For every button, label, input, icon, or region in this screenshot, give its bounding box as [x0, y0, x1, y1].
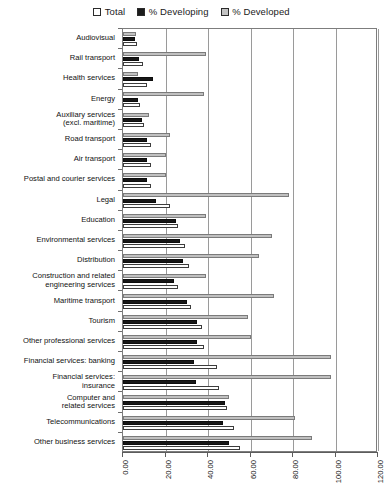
legend-label-developed: % Developed — [232, 6, 290, 17]
bar-developing — [123, 320, 197, 324]
x-axis-label: 60.00 — [248, 460, 257, 479]
y-axis-label: Postal and courier services — [24, 175, 115, 183]
x-axis-label: 80.00 — [291, 460, 300, 479]
y-axis-label: Financial services: banking — [24, 357, 115, 365]
bar-group — [123, 150, 376, 170]
bar-developed — [123, 32, 136, 36]
bar-group — [123, 433, 376, 453]
bar-developed — [123, 214, 206, 218]
bar-total — [123, 103, 140, 107]
legend-item-total: Total — [93, 6, 125, 17]
y-axis-tick — [118, 230, 122, 231]
bar-total — [123, 83, 147, 87]
chart-legend: Total % Developing % Developed — [0, 6, 383, 17]
bar-developing — [123, 380, 196, 384]
y-axis-tick — [118, 169, 122, 170]
y-axis-label: Construction and related engineering ser… — [32, 272, 115, 289]
y-axis-label: Education — [81, 216, 115, 224]
bar-developed — [123, 234, 272, 238]
bar-developed — [123, 436, 312, 440]
bar-total — [123, 123, 144, 127]
bar-developing — [123, 360, 194, 364]
bar-developed — [123, 335, 251, 339]
bar-developing — [123, 401, 225, 405]
y-axis-label: Air transport — [74, 155, 115, 163]
y-axis-label: Road transport — [65, 135, 115, 143]
y-axis-label: Audiovisual — [76, 34, 115, 42]
bar-group — [123, 372, 376, 392]
y-axis-label: Computer and related services — [62, 393, 115, 410]
bar-group — [123, 413, 376, 433]
y-axis-tick — [118, 149, 122, 150]
x-axis-tick-120 — [377, 452, 378, 457]
y-axis-tick — [118, 129, 122, 130]
bar-group — [123, 291, 376, 311]
bar-rows — [123, 29, 376, 451]
y-axis-tick — [118, 351, 122, 352]
bar-total — [123, 204, 170, 208]
bar-group — [123, 332, 376, 352]
y-axis-label: Financial services: insurance — [53, 373, 115, 390]
y-axis-tick — [118, 412, 122, 413]
bar-developed — [123, 375, 331, 379]
bar-group — [123, 271, 376, 291]
bar-developed — [123, 113, 149, 117]
y-axis-tick — [118, 331, 122, 332]
bar-developed — [123, 416, 295, 420]
y-axis-label: Legal — [96, 195, 115, 203]
bar-total — [123, 42, 137, 46]
bar-developed — [123, 173, 166, 177]
bar-developing — [123, 441, 229, 445]
y-axis-label: Distribution — [77, 256, 115, 264]
x-axis-label: 100.00 — [333, 460, 342, 483]
bar-total — [123, 446, 240, 450]
y-axis-label: Health services — [63, 74, 115, 82]
bar-developing — [123, 421, 223, 425]
legend-swatch-total — [93, 8, 101, 16]
bar-developed — [123, 254, 259, 258]
y-axis-label: Telecommunications — [46, 418, 115, 426]
bar-group — [123, 29, 376, 49]
y-axis-tick — [118, 250, 122, 251]
bar-developing — [123, 37, 135, 41]
legend-item-developing: % Developing — [137, 6, 208, 17]
x-axis-label: 20.00 — [163, 460, 172, 479]
bar-group — [123, 352, 376, 372]
bar-total — [123, 244, 185, 248]
bar-developed — [123, 52, 206, 56]
bar-group — [123, 130, 376, 150]
bar-developed — [123, 72, 138, 76]
x-axis-tick-60 — [250, 452, 251, 457]
y-axis-tick — [118, 68, 122, 69]
bar-developed — [123, 315, 248, 319]
y-axis-tick — [118, 89, 122, 90]
bar-developing — [123, 178, 147, 182]
bar-developing — [123, 77, 153, 81]
x-axis-label: 40.00 — [206, 460, 215, 479]
bar-total — [123, 264, 189, 268]
bar-total — [123, 345, 204, 349]
plot-area — [122, 28, 377, 452]
y-axis-tick — [118, 48, 122, 49]
gridline-120 — [378, 29, 379, 451]
y-axis-label: Rail transport — [70, 54, 115, 62]
bar-group — [123, 110, 376, 130]
bar-developed — [123, 274, 206, 278]
bar-developing — [123, 219, 176, 223]
legend-label-developing: % Developing — [149, 6, 209, 17]
bar-developing — [123, 118, 142, 122]
y-axis-labels: AudiovisualRail transportHealth services… — [0, 28, 119, 452]
horizontal-bar-chart: Total % Developing % Developed Audiovisu… — [0, 0, 387, 503]
legend-label-total: Total — [105, 6, 126, 17]
y-axis-label: Tourism — [88, 317, 115, 325]
bar-group — [123, 251, 376, 271]
bar-total — [123, 184, 151, 188]
y-axis-tick — [118, 270, 122, 271]
bar-developing — [123, 340, 197, 344]
bar-developing — [123, 158, 147, 162]
x-axis-tick-40 — [207, 452, 208, 457]
legend-item-developed: % Developed — [221, 6, 290, 17]
bar-total — [123, 163, 151, 167]
bar-group — [123, 170, 376, 190]
bar-total — [123, 224, 178, 228]
